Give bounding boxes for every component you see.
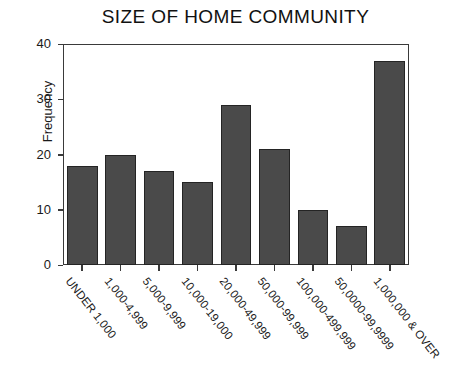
x-tick-label: 1,000,000 & OVER xyxy=(371,275,442,361)
bar xyxy=(144,171,175,265)
bar xyxy=(67,166,98,265)
bars-container xyxy=(63,44,409,265)
x-tick-mark xyxy=(120,265,122,271)
bar xyxy=(182,182,213,265)
y-tick-label: 40 xyxy=(37,36,51,51)
chart-title: SIZE OF HOME COMMUNITY xyxy=(0,6,471,28)
bar-chart: SIZE OF HOME COMMUNITY Frequency 0102030… xyxy=(0,0,471,368)
y-tick-label: 30 xyxy=(37,91,51,106)
x-tick-mark xyxy=(197,265,199,271)
x-tick-mark xyxy=(235,265,237,271)
y-tick-label: 20 xyxy=(37,147,51,162)
bar xyxy=(105,155,136,266)
bar xyxy=(336,226,367,265)
y-tick-label: 0 xyxy=(44,257,51,272)
x-tick-mark xyxy=(274,265,276,271)
y-tick-label: 10 xyxy=(37,202,51,217)
x-tick-mark xyxy=(389,265,391,271)
x-tick-mark xyxy=(81,265,83,271)
x-tick-mark xyxy=(351,265,353,271)
bar xyxy=(259,149,290,265)
bar xyxy=(298,210,329,265)
x-tick-mark xyxy=(312,265,314,271)
x-tick-mark xyxy=(158,265,160,271)
bar xyxy=(221,105,252,265)
bar xyxy=(374,61,405,265)
